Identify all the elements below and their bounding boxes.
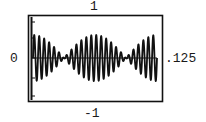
y-min-label: -1 bbox=[84, 107, 100, 120]
y-max-label: 1 bbox=[90, 0, 98, 13]
x-end-label: .125 bbox=[165, 52, 196, 65]
y-zero-label: 0 bbox=[10, 52, 18, 65]
